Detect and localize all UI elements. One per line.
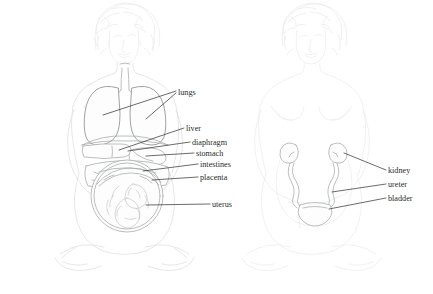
right-figure-organs bbox=[280, 143, 347, 226]
label-lungs: lungs bbox=[178, 88, 196, 97]
torso-sketch-right bbox=[242, 63, 381, 271]
label-diaphragm: diaphragm bbox=[192, 138, 228, 147]
right-figure-body-sketch bbox=[242, 3, 381, 271]
leader-ureter bbox=[332, 184, 386, 192]
face-sketch-right bbox=[296, 30, 326, 64]
ureter-organ-left bbox=[288, 163, 302, 208]
left-figure-labels: lungs liver diaphragm stomach intestines… bbox=[178, 88, 232, 209]
right-figure-labels: kidney ureter bladder bbox=[388, 166, 413, 203]
label-intestines: intestines bbox=[200, 160, 231, 169]
label-bladder: bladder bbox=[388, 194, 413, 203]
anatomy-illustration: lungs liver diaphragm stomach intestines… bbox=[0, 0, 433, 294]
uterus-organ bbox=[91, 160, 163, 232]
hair-sketch-right bbox=[282, 3, 347, 55]
face-sketch bbox=[108, 30, 141, 64]
liver-organ bbox=[82, 144, 131, 159]
kidney-organ-left bbox=[280, 143, 298, 163]
leader-bladder bbox=[329, 198, 386, 209]
ureter-organ-right bbox=[325, 163, 339, 208]
label-uterus: uterus bbox=[212, 200, 232, 209]
anatomy-diagram: lungs liver diaphragm stomach intestines… bbox=[0, 0, 433, 294]
label-liver: liver bbox=[186, 124, 201, 133]
label-ureter: ureter bbox=[388, 180, 407, 189]
label-placenta: placenta bbox=[200, 173, 228, 182]
label-kidney: kidney bbox=[388, 166, 411, 175]
hair-sketch bbox=[94, 3, 160, 55]
bladder-organ bbox=[298, 203, 332, 227]
label-stomach: stomach bbox=[196, 149, 223, 158]
